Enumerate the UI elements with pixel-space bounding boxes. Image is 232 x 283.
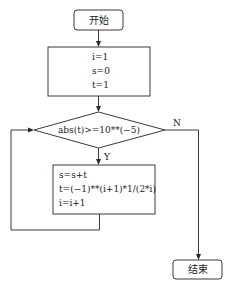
condition-decision-node: abs(t)>=10**(−5)	[34, 112, 165, 148]
flowchart-diagram: 开始 i=1 s=0 t=1 abs(t)>=10**(−5) Y	[0, 0, 232, 283]
init-line-i: i=1	[92, 52, 108, 62]
body-line-i: i=i+1	[59, 198, 86, 208]
init-process-node: i=1 s=0 t=1	[48, 47, 150, 96]
init-line-s: s=0	[92, 66, 110, 76]
arrow-init-to-condition	[96, 96, 101, 112]
condition-label: abs(t)>=10**(−5)	[58, 125, 140, 135]
arrow-no-branch: N	[165, 118, 201, 260]
end-label: 结束	[188, 263, 208, 275]
arrow-yes-branch: Y	[96, 148, 111, 165]
end-node: 结束	[173, 260, 222, 279]
start-label: 开始	[89, 14, 109, 26]
loop-body-process-node: s=s+t t=(−1)**(i+1)*1/(2*i) i=i+1	[53, 165, 156, 214]
body-line-t: t=(−1)**(i+1)*1/(2*i)	[59, 184, 156, 194]
init-line-t: t=1	[92, 80, 109, 90]
yes-branch-label: Y	[103, 152, 111, 162]
arrow-head-icon	[96, 159, 101, 165]
arrow-head-icon	[196, 254, 201, 260]
flowchart-canvas: 开始 i=1 s=0 t=1 abs(t)>=10**(−5) Y	[0, 0, 232, 283]
start-node: 开始	[74, 10, 123, 30]
arrow-head-icon	[96, 106, 101, 112]
body-line-s: s=s+t	[59, 170, 87, 180]
arrow-head-icon	[96, 41, 101, 47]
arrow-start-to-init	[96, 30, 101, 47]
arrow-head-icon	[28, 128, 34, 133]
no-branch-label: N	[173, 118, 181, 128]
